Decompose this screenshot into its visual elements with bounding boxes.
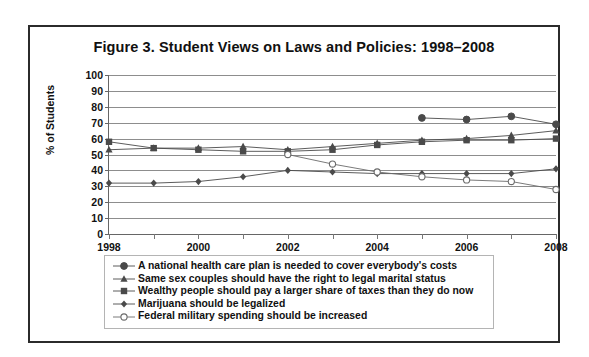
legend-marker-filled-circle-icon	[111, 260, 137, 272]
data-point	[329, 168, 335, 175]
plot-area: 0102030405060708090100 19982000200220042…	[108, 75, 556, 235]
data-point	[240, 148, 246, 154]
legend-item: Federal military spending should be incr…	[111, 310, 487, 323]
legend-marker-open-circle-icon	[111, 311, 137, 323]
data-point	[195, 147, 201, 153]
data-series	[106, 165, 559, 187]
y-tick-label: 70	[91, 117, 103, 129]
y-tick-label: 90	[91, 85, 103, 97]
y-tick-label: 10	[91, 212, 103, 224]
data-point	[195, 178, 201, 185]
data-point	[508, 178, 514, 184]
x-tick-mark	[333, 234, 334, 239]
legend-label: Same sex couples should have the right t…	[138, 273, 446, 286]
legend-item: Same sex couples should have the right t…	[111, 273, 487, 286]
x-tick-mark	[243, 234, 244, 239]
data-point	[553, 121, 560, 128]
legend-marker-filled-diamond-icon	[111, 298, 137, 310]
data-point	[151, 180, 157, 187]
data-point	[553, 165, 559, 172]
legend-item: Wealthy people should pay a larger share…	[111, 285, 487, 298]
data-point	[508, 170, 514, 177]
data-point	[374, 142, 380, 148]
legend-label: Federal military spending should be incr…	[138, 310, 367, 323]
x-tick-mark	[198, 234, 199, 239]
data-point	[240, 173, 246, 180]
data-point	[329, 147, 335, 153]
y-tick-label: 80	[91, 101, 103, 113]
y-tick-label: 100	[85, 69, 103, 81]
x-tick-label: 2002	[276, 241, 299, 253]
data-series	[419, 113, 560, 128]
data-point	[151, 145, 157, 151]
series-layer	[109, 75, 556, 234]
legend-marker-filled-triangle-icon	[111, 273, 137, 285]
x-tick-mark	[511, 234, 512, 239]
data-point	[329, 161, 335, 167]
x-tick-mark	[154, 234, 155, 239]
series-line	[422, 116, 556, 124]
legend-label: A national health care plan is needed to…	[138, 260, 457, 273]
x-tick-label: 2000	[187, 241, 210, 253]
figure-frame: Figure 3. Student Views on Laws and Poli…	[28, 25, 560, 343]
chart-legend: A national health care plan is needed to…	[104, 255, 494, 329]
data-point	[285, 151, 291, 157]
y-tick-label: 50	[91, 149, 103, 161]
legend-label: Marijuana should be legalized	[138, 298, 285, 311]
y-axis-label: % of Students	[44, 85, 56, 155]
y-tick-label: 0	[97, 228, 103, 240]
x-tick-label: 1998	[97, 241, 120, 253]
data-point	[419, 174, 425, 180]
data-point	[374, 169, 380, 175]
data-point	[553, 135, 559, 141]
legend-marker-filled-square-icon	[111, 285, 137, 297]
data-point	[419, 139, 425, 145]
legend-label: Wealthy people should pay a larger share…	[138, 285, 473, 298]
y-tick-label: 20	[91, 196, 103, 208]
y-tick-label: 40	[91, 164, 103, 176]
x-tick-label: 2008	[544, 241, 567, 253]
x-tick-label: 2004	[366, 241, 389, 253]
x-tick-mark	[422, 234, 423, 239]
data-point	[463, 116, 470, 123]
data-point	[552, 127, 559, 134]
legend-item: A national health care plan is needed to…	[111, 260, 487, 273]
data-point	[464, 177, 470, 183]
y-tick-label: 60	[91, 133, 103, 145]
data-point	[463, 137, 469, 143]
x-tick-mark	[109, 234, 110, 239]
x-tick-mark	[467, 234, 468, 239]
data-point	[508, 137, 514, 143]
data-point	[106, 139, 112, 145]
y-tick-label: 30	[91, 180, 103, 192]
x-tick-label: 2006	[455, 241, 478, 253]
data-point	[285, 167, 291, 174]
data-point	[464, 170, 470, 177]
data-point	[508, 113, 515, 120]
x-tick-mark	[556, 234, 557, 239]
x-tick-mark	[377, 234, 378, 239]
data-point	[419, 115, 426, 122]
x-tick-mark	[288, 234, 289, 239]
legend-item: Marijuana should be legalized	[111, 298, 487, 311]
data-point	[553, 186, 559, 192]
